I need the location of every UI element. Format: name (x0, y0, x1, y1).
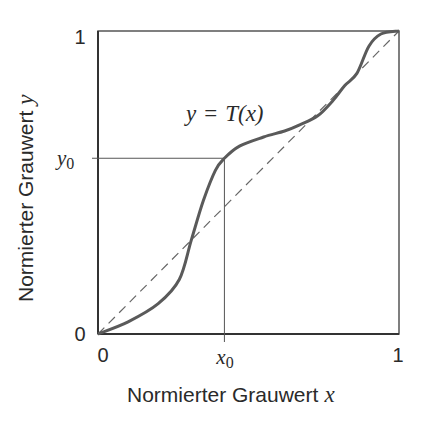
y-axis-label-var: y (13, 94, 38, 107)
y-axis-label-text: Normierter Grauwert (14, 110, 37, 302)
y-tick-one: 1 (74, 26, 85, 48)
y0-sub: 0 (66, 155, 74, 172)
x0-sub: 0 (226, 354, 234, 371)
x-tick-x0: x0 (215, 345, 233, 371)
y-tick-zero: 0 (74, 323, 85, 345)
y0-base: y (55, 146, 67, 170)
annotation-arg: (x) (238, 101, 264, 126)
x-axis-label: Normierter Grauwertx (127, 382, 335, 407)
chart: 1 0 y0 0 1 x0 y=T(x) Normierter Grauwert… (0, 0, 422, 425)
x-axis-label-text: Normierter Grauwert (127, 383, 319, 406)
x-tick-zero: 0 (97, 344, 108, 366)
curve-annotation: y=T(x) (184, 101, 264, 126)
y-tick-y0: y0 (55, 146, 74, 172)
annotation-eq: = (204, 101, 217, 126)
x-tick-one: 1 (392, 344, 403, 366)
x-axis-label-var: x (323, 382, 335, 407)
annotation-lhs: y (184, 101, 197, 126)
y-axis-label: Normierter Grauwerty (13, 94, 38, 302)
